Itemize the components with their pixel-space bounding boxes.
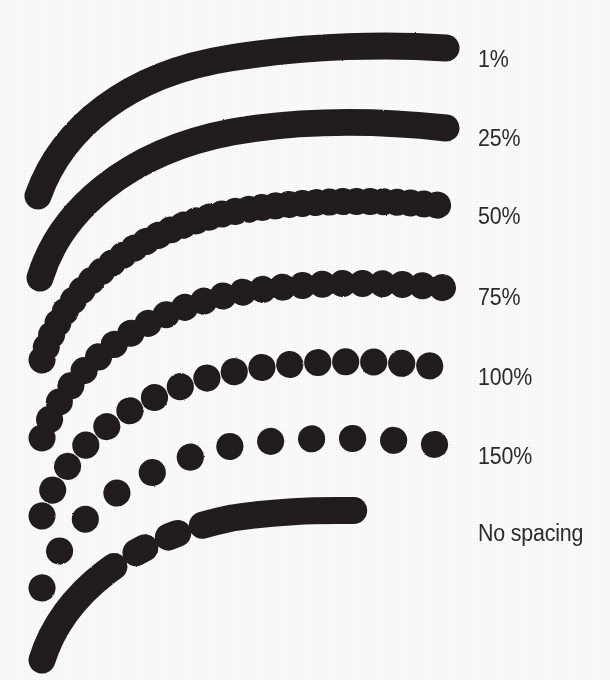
stroke-path-75 bbox=[42, 283, 446, 438]
stroke-label-50: 50% bbox=[478, 203, 520, 230]
stroke-canvas bbox=[0, 0, 610, 680]
stroke-label-100: 100% bbox=[478, 364, 532, 391]
stroke-label-150: 150% bbox=[478, 443, 532, 470]
paper-grain-overlay bbox=[0, 0, 610, 680]
stroke-label-no-spacing: No spacing bbox=[478, 520, 583, 547]
stroke-path-100 bbox=[42, 362, 446, 516]
stroke-label-1: 1% bbox=[478, 46, 509, 73]
stroke-path-25 bbox=[40, 123, 446, 279]
stroke-label-75: 75% bbox=[478, 284, 520, 311]
stroke-path-1 bbox=[38, 46, 446, 196]
stroke-path-50 bbox=[42, 201, 446, 360]
spacing-figure: 1% 25% 50% 75% 100% 150% No spacing bbox=[0, 0, 610, 680]
stroke-label-25: 25% bbox=[478, 125, 520, 152]
stroke-path-no-spacing bbox=[42, 510, 446, 660]
stroke-path-150 bbox=[42, 438, 446, 588]
